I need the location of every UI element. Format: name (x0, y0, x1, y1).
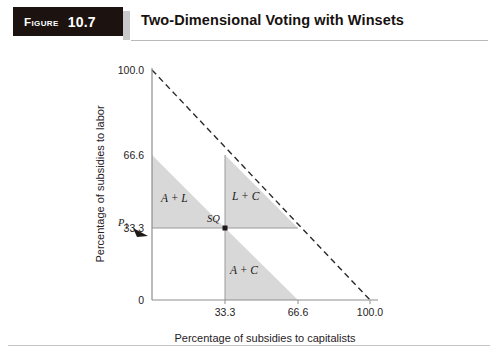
figure-word-label: Figure (24, 16, 59, 28)
x-tick-label-66: 66.6 (288, 306, 309, 318)
status-quo-label: SQ (207, 213, 220, 224)
figure-number-label: 10.7 (68, 14, 96, 30)
figure-number-banner: Figure 10.7 (13, 7, 123, 36)
figure-body: 100.0 66.6 33.3 0 33.3 66.6 100.0 Percen… (0, 46, 498, 346)
y-axis-title: Percentage of subsidies to labor (94, 105, 106, 262)
status-quo-point-marker (223, 226, 228, 231)
x-tick-label-33: 33.3 (215, 306, 236, 318)
region-label-a-plus-c: A + C (229, 264, 258, 276)
x-tick-label-100: 100.0 (357, 306, 383, 318)
plot-canvas: 100.0 66.6 33.3 0 33.3 66.6 100.0 Percen… (0, 46, 498, 346)
figure-title: Two-Dimensional Voting with Winsets (141, 12, 404, 28)
region-label-a-plus-l: A + L (160, 192, 188, 204)
y-tick-label-66: 66.6 (124, 149, 145, 161)
banner-drop-shadow (123, 11, 130, 40)
y-tick-label-0: 0 (138, 294, 144, 306)
region-label-l-plus-c: L + C (231, 190, 260, 202)
figure-header: Figure 10.7 Two-Dimensional Voting with … (0, 0, 498, 46)
page-footer-rule (8, 345, 490, 346)
y-tick-label-100: 100.0 (118, 64, 144, 76)
x-axis-title: Percentage of subsidies to capitalists (175, 332, 356, 344)
p1-subscript: 1 (124, 222, 128, 231)
header-divider-rule (131, 40, 488, 41)
x-axis-ticks (225, 300, 370, 304)
